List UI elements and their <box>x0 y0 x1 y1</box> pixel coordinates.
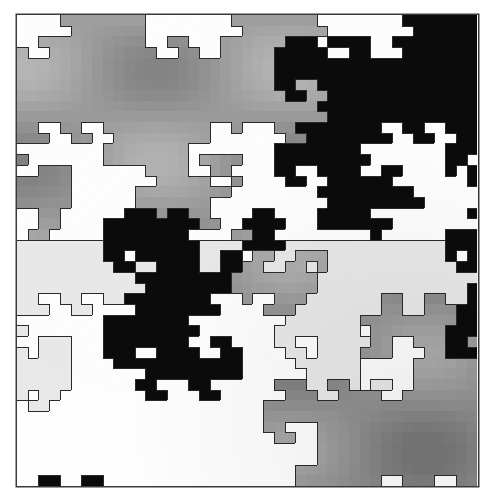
tile-cell-white <box>231 465 242 476</box>
tile-cell-light-gray <box>349 315 360 326</box>
tile-cell-mid-gray <box>274 26 285 37</box>
tile-cell-white <box>156 15 167 26</box>
tile-cell-white <box>17 229 28 240</box>
tile-cell-light-gray <box>231 240 242 251</box>
tile-cell-white <box>81 358 92 369</box>
tile-cell-light-gray <box>135 261 146 272</box>
tile-cell-white <box>188 143 199 154</box>
tile-cell-white <box>71 358 82 369</box>
tile-cell-mid-gray <box>434 465 445 476</box>
tile-cell-mid-gray <box>413 390 424 401</box>
tile-cell-black <box>434 47 445 58</box>
tile-cell-mid-gray <box>424 379 435 390</box>
tile-cell-mid-gray <box>467 336 478 347</box>
tile-cell-mid-gray <box>467 411 478 422</box>
tile-cell-black <box>145 358 156 369</box>
tile-cell-mid-gray <box>252 283 263 294</box>
tile-cell-white <box>199 26 210 37</box>
tile-cell-white <box>467 154 478 165</box>
tile-cell-mid-gray <box>188 111 199 122</box>
tile-cell-mid-gray <box>145 47 156 58</box>
tile-cell-black <box>285 90 296 101</box>
tile-cell-white <box>263 336 274 347</box>
tile-cell-white <box>103 186 114 197</box>
tile-cell-white <box>210 176 221 187</box>
tile-cell-mid-gray <box>467 368 478 379</box>
tile-cell-mid-gray <box>360 422 371 433</box>
tile-cell-white <box>402 218 413 229</box>
tile-cell-mid-gray <box>263 283 274 294</box>
tile-cell-mid-gray <box>156 122 167 133</box>
tile-cell-mid-gray <box>178 58 189 69</box>
tile-cell-white <box>38 422 49 433</box>
tile-cell-light-gray <box>60 283 71 294</box>
tile-cell-black <box>124 208 135 219</box>
tile-cell-white <box>113 411 124 422</box>
tile-cell-black <box>263 240 274 251</box>
tile-cell-white <box>274 454 285 465</box>
tile-cell-mid-gray <box>188 197 199 208</box>
tile-cell-light-gray <box>327 250 338 261</box>
tile-cell-white <box>145 26 156 37</box>
tile-cell-mid-gray <box>135 111 146 122</box>
tile-cell-black <box>445 250 456 261</box>
tile-cell-black <box>434 111 445 122</box>
tile-cell-white <box>306 443 317 454</box>
tile-cell-black <box>467 250 478 261</box>
tile-cell-white <box>242 432 253 443</box>
tile-cell-black <box>145 272 156 283</box>
tile-cell-light-gray <box>434 250 445 261</box>
tile-cell-white <box>81 432 92 443</box>
tile-cell-black <box>113 315 124 326</box>
tile-cell-white <box>424 218 435 229</box>
tile-cell-white <box>285 443 296 454</box>
tile-cell-white <box>81 315 92 326</box>
tile-cell-white <box>81 325 92 336</box>
tile-cell-mid-gray <box>199 111 210 122</box>
tile-cell-black <box>445 229 456 240</box>
tile-cell-mid-gray <box>60 69 71 80</box>
tile-cell-black <box>456 122 467 133</box>
tile-cell-mid-gray <box>28 186 39 197</box>
tile-cell-black <box>188 325 199 336</box>
tile-cell-black <box>274 154 285 165</box>
tile-cell-mid-gray <box>135 154 146 165</box>
tile-cell-black <box>349 186 360 197</box>
tile-cell-black <box>113 325 124 336</box>
tile-cell-black <box>252 218 263 229</box>
tile-cell-light-gray <box>456 272 467 283</box>
tile-cell-mid-gray <box>360 443 371 454</box>
tile-cell-white <box>327 26 338 37</box>
tile-cell-black <box>349 90 360 101</box>
tile-cell-black <box>145 208 156 219</box>
tile-cell-mid-gray <box>424 400 435 411</box>
tile-cell-white <box>92 400 103 411</box>
tile-cell-mid-gray <box>167 133 178 144</box>
tile-cell-black <box>220 336 231 347</box>
tile-cell-white <box>242 347 253 358</box>
tile-cell-light-gray <box>306 379 317 390</box>
tile-cell-black <box>424 90 435 101</box>
tile-cell-white <box>49 315 60 326</box>
tile-cell-black <box>103 250 114 261</box>
tile-cell-black <box>199 390 210 401</box>
tile-cell-black <box>295 122 306 133</box>
tile-cell-mid-gray <box>349 390 360 401</box>
tile-cell-mid-gray <box>424 358 435 369</box>
tile-cell-black <box>124 325 135 336</box>
tile-cell-white <box>135 475 146 486</box>
tile-cell-mid-gray <box>188 101 199 112</box>
tile-cell-mid-gray <box>199 69 210 80</box>
tile-cell-white <box>274 176 285 187</box>
tile-cell-black <box>381 69 392 80</box>
tile-cell-white <box>360 26 371 37</box>
tile-cell-white <box>242 390 253 401</box>
tile-cell-mid-gray <box>231 101 242 112</box>
tile-cell-white <box>49 325 60 336</box>
tile-cell-light-gray <box>145 261 156 272</box>
tile-cell-white <box>210 432 221 443</box>
tile-cell-white <box>103 379 114 390</box>
tile-cell-white <box>252 379 263 390</box>
tile-cell-black <box>145 336 156 347</box>
tile-cell-mid-gray <box>402 454 413 465</box>
